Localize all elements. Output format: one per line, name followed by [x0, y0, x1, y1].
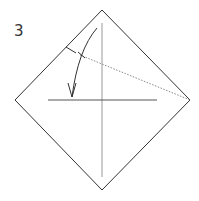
fold-arrow-icon: [72, 28, 97, 97]
valley-fold-line: [80, 55, 190, 100]
reference-mark-edge: [66, 47, 76, 53]
origami-diagram: [0, 0, 199, 201]
